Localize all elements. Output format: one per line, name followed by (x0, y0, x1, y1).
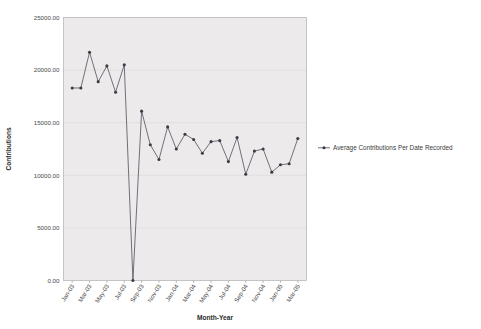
data-point (105, 64, 108, 67)
data-point (123, 63, 126, 66)
data-point (288, 162, 291, 165)
data-point (131, 279, 134, 282)
data-point (192, 138, 195, 141)
x-axis-title: Month-Year (197, 314, 233, 321)
plot-area-background (64, 18, 307, 281)
data-point (140, 110, 143, 113)
data-point (166, 125, 169, 128)
legend-marker-icon (322, 146, 325, 149)
data-point (157, 158, 160, 161)
data-point (114, 91, 117, 94)
data-point (209, 140, 212, 143)
data-point (88, 51, 91, 54)
y-tick-label: 15000.00 (34, 119, 60, 126)
data-point (183, 133, 186, 136)
data-point (97, 80, 100, 83)
data-point (253, 150, 256, 153)
y-tick-label: 0.00 (47, 277, 60, 284)
data-point (201, 152, 204, 155)
data-point (279, 163, 282, 166)
line-chart: 0.005000.0010000.0015000.0020000.0025000… (0, 0, 481, 329)
y-tick-label: 25000.00 (34, 14, 60, 21)
data-point (244, 173, 247, 176)
y-tick-label: 10000.00 (34, 172, 60, 179)
data-point (175, 147, 178, 150)
legend-item-label: Average Contributions Per Date Recorded (333, 144, 453, 152)
data-point (218, 139, 221, 142)
data-point (262, 147, 265, 150)
data-point (270, 171, 273, 174)
data-point (149, 143, 152, 146)
y-tick-label: 20000.00 (34, 66, 60, 73)
data-point (71, 86, 74, 89)
data-point (236, 136, 239, 139)
y-axis-title: Contributions (5, 127, 12, 171)
data-point (227, 160, 230, 163)
chart-legend: Average Contributions Per Date Recorded (314, 142, 474, 156)
chart-container: 0.005000.0010000.0015000.0020000.0025000… (0, 0, 481, 329)
y-tick-label: 5000.00 (37, 224, 60, 231)
data-point (296, 137, 299, 140)
data-point (79, 86, 82, 89)
